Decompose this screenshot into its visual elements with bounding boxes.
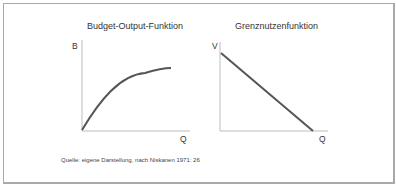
- left-x-axis-label: Q: [180, 134, 187, 144]
- marginal-utility-line: [221, 53, 313, 131]
- right-x-axis-label: Q: [319, 134, 326, 144]
- budget-output-curve: [82, 68, 171, 130]
- right-y-axis-label: V: [212, 41, 218, 51]
- left-chart: [82, 40, 190, 131]
- source-caption: Quelle: eigene Darstellung, nach Niskane…: [61, 157, 200, 163]
- right-chart: [220, 42, 328, 131]
- left-y-axis-label: B: [72, 41, 78, 51]
